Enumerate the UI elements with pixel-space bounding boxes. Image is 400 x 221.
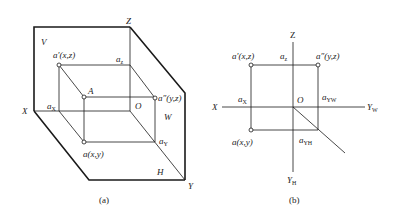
proj-a-prime-A	[59, 65, 84, 97]
label-Z: Z	[290, 30, 296, 40]
point-a	[249, 128, 253, 132]
v-plane-edge	[34, 27, 130, 111]
label-O: O	[135, 101, 142, 111]
label-H: H	[156, 167, 164, 177]
label-a: a(x,y)	[232, 137, 253, 147]
label-a-prime: a′(x,z)	[232, 51, 254, 61]
label-A: A	[87, 86, 94, 96]
label-ax: aX	[238, 94, 248, 105]
label-V: V	[41, 37, 48, 47]
label-a-double-prime: a″(y,z)	[158, 93, 182, 103]
projection-diagram: V W H Z X Y O a′(x,z) a″(y,z) A a(x,y) a…	[0, 0, 400, 221]
label-Z: Z	[126, 16, 132, 26]
label-Y: Y	[188, 181, 194, 191]
point-A	[82, 95, 86, 99]
label-X: X	[21, 106, 28, 116]
label-Yh: YH	[287, 175, 297, 186]
caption-a: (a)	[99, 195, 109, 205]
label-Yw: YW	[367, 102, 378, 113]
label-a-prime: a′(x,z)	[53, 50, 75, 60]
point-a-prime	[57, 63, 61, 67]
point-a	[82, 140, 86, 144]
figure-b: Z X O YW YH a′(x,z) a″(y,z) a(x,y) aX az…	[211, 30, 378, 205]
caption-b: (b)	[289, 195, 300, 205]
label-a: a(x,y)	[83, 149, 104, 159]
point-a-double-prime	[153, 96, 157, 100]
proj-az-a-double-prime	[130, 65, 155, 98]
label-az: az	[280, 51, 288, 62]
label-a-double-prime: a″(y,z)	[316, 51, 340, 61]
label-O: O	[297, 95, 304, 105]
figure-a: V W H Z X Y O a′(x,z) a″(y,z) A a(x,y) a…	[21, 16, 194, 205]
label-X: X	[211, 102, 218, 112]
label-W: W	[164, 112, 173, 122]
proj-ax-a	[59, 111, 84, 142]
point-a-prime	[249, 63, 253, 67]
label-ayw: aYW	[322, 92, 337, 103]
label-ayh: aYH	[299, 135, 313, 146]
label-ay: aY	[159, 136, 169, 147]
label-ax: aX	[47, 101, 57, 112]
label-az: az	[116, 54, 124, 65]
point-a-double-prime	[316, 63, 320, 67]
